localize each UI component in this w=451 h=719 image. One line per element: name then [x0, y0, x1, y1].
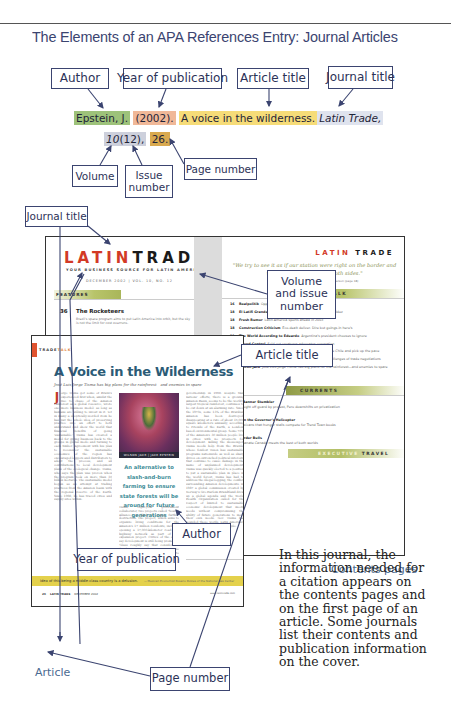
label-article-title-pages: Article title — [241, 344, 333, 367]
page-title: The Elements of an APA References Entry:… — [32, 28, 398, 46]
photo-figure — [141, 407, 157, 431]
label-journal-title-text: Journal title — [326, 71, 395, 85]
label-page-number: Page number — [184, 158, 257, 180]
article-headline: A Voice in the Wilderness — [54, 364, 233, 379]
label-year-pages: Year of publication — [77, 548, 176, 571]
citation-article-title: A voice in the wilderness. — [179, 111, 317, 125]
label-volume-text: Volume — [75, 170, 114, 182]
label-volume: Volume — [72, 165, 118, 187]
toc-item: 28A Banner StumblerCaught off guard by p… — [230, 400, 400, 409]
article-photo: WILSON JACK | JACK EPSTEIN — [119, 393, 179, 458]
toc-desc: Cipanate Canada meets the best of both w… — [239, 441, 318, 445]
drop-cap: J — [54, 392, 60, 402]
toc-title: Fresh Rumor — [239, 318, 263, 322]
label-issue-number: Issue number — [125, 165, 173, 198]
article-deck: José Luis Jorge Tisma has big plans for … — [54, 382, 202, 387]
toc-item: 19The World According to EduardoArgentin… — [230, 334, 400, 339]
section-label-trade: TRADE — [39, 348, 57, 352]
footer-page-number: 26 — [42, 592, 46, 596]
top-rule — [0, 23, 451, 24]
right-logo-trade: TRADE — [355, 249, 394, 257]
date-volume-line: DECEMBER 2002 | VOL. 10, NO. 12 — [86, 279, 173, 283]
column-1-text: orge Tisma got some of Brazil's experien… — [54, 392, 112, 501]
label-year-pages-text: Year of publication — [73, 553, 179, 566]
footer-journal: LATIN TRADE — [50, 592, 70, 596]
citation-volume: 10 — [106, 133, 119, 145]
quote-band: Idea of this being a middle-class countr… — [32, 576, 243, 586]
article-footer: 26LATIN TRADEDECEMBER 2002 — [42, 592, 98, 596]
footer-date: DECEMBER 2002 — [74, 592, 98, 596]
toc-title: A Banner Stumbler — [239, 400, 274, 404]
label-journal-title: Journal title — [328, 66, 393, 89]
toc-desc: Argentina's president chooses to ignore — [301, 334, 367, 338]
label-author-text: Author — [60, 72, 100, 86]
section-label: TRADETALK — [39, 348, 71, 352]
features-bar: FEATURES — [54, 290, 121, 299]
toc-num: 18 — [230, 310, 239, 315]
right-latin-trade-logo: LATIN TRADE — [315, 249, 394, 257]
executive-travel-bar: EXECUTIVE TRAVEL — [288, 449, 405, 458]
band-attribution: — Mexican Economist Rosario Robles of th… — [144, 579, 234, 583]
band-quote: Idea of this being a middle-class countr… — [40, 579, 138, 583]
label-year-text: Year of publication — [117, 72, 228, 86]
feature-page-number: 36 — [60, 308, 68, 314]
toc-desc: Eco-dealt deliver. Dire but goings-in he… — [282, 326, 352, 330]
currents-rule — [222, 395, 405, 396]
citation-line-1: Epstein, J. (2002). A voice in the wilde… — [74, 112, 383, 124]
citation-year: (2002). — [133, 111, 175, 125]
photo-caption: WILSON JACK | JACK EPSTEIN — [119, 452, 179, 458]
citation-issue: (12), — [119, 133, 144, 145]
caption-article: Article — [35, 666, 70, 679]
toc-desc: Mexicans that hunger stalls compete for … — [239, 423, 336, 427]
label-journal-title-pages: Journal title — [25, 206, 88, 227]
travel-label: TRAVEL — [362, 451, 390, 456]
right-logo-latin: LATIN — [315, 249, 350, 257]
citation-journal-title: Latin Trade, — [317, 111, 383, 125]
section-red-tab — [32, 343, 37, 357]
label-issue-text: Issue number — [129, 170, 170, 193]
currents-bar: CURRENTS — [286, 386, 405, 395]
column-end-rule — [186, 559, 244, 560]
label-volume-issue-text: Volume and issue number — [272, 276, 331, 312]
label-journal-title-pages-text: Journal title — [26, 210, 86, 222]
explanatory-note: In this journal, the information needed … — [279, 548, 429, 669]
toc-title: El Latifi Grande — [239, 310, 268, 314]
executive-label: EXECUTIVE — [318, 451, 359, 456]
toc-title: Can the Governor's Helicopter — [239, 418, 295, 422]
label-author-pages-text: Author — [182, 528, 221, 541]
citation-page: 26. — [150, 132, 171, 146]
toc-item: 30Can the Governor's HelicopterMexicans … — [230, 418, 400, 427]
label-article-title: Article title — [237, 68, 309, 89]
toc-title: Construction Criticism — [239, 326, 280, 330]
toc-num: 18 — [230, 318, 239, 323]
toc-title: The World According to Eduardo — [239, 334, 299, 338]
citation-line-2: 10(12), 26. — [104, 133, 170, 145]
features-rule — [54, 299, 194, 300]
toc-num: 18 — [230, 326, 239, 331]
toc-num: 16 — [230, 302, 239, 307]
label-year-of-publication: Year of publication — [123, 68, 222, 89]
logo-tagline: YOUR BUSINESS SOURCE FOR LATIN AMERICA — [66, 268, 204, 272]
article-column-1: Jorge Tisma got some of Brazil's experie… — [54, 392, 112, 557]
label-page-number-pages-text: Page number — [152, 672, 228, 685]
toc-desc: Caught off guard by protest, Peru downsh… — [239, 405, 340, 409]
label-page-number-pages: Page number — [150, 667, 230, 691]
citation-volume-issue: 10(12), — [104, 132, 146, 146]
label-page-number-text: Page number — [186, 163, 256, 175]
label-volume-and-issue: Volume and issue number — [267, 270, 336, 319]
toc-item: 32Border BullsCipanate Canada meets the … — [230, 436, 400, 445]
citation-author: Epstein, J. — [74, 111, 130, 125]
toc-title: Realpolitik — [239, 302, 259, 306]
currents-list: 28A Banner StumblerCaught off guard by p… — [230, 400, 400, 455]
section-label-talk: TALK — [57, 348, 71, 352]
label-article-title-text: Article title — [240, 72, 306, 86]
toc-item: 18Construction CriticismEco-dealt delive… — [230, 326, 400, 331]
feature-title: The Rocketeers — [76, 308, 124, 314]
latin-trade-logo: LATINTRADE — [64, 249, 208, 267]
label-author: Author — [51, 68, 109, 89]
label-author-pages: Author — [172, 523, 231, 546]
footer-url: www.latintrade.com — [210, 592, 235, 595]
logo-latin: LATIN — [64, 249, 132, 267]
feature-description: Brazil's space program aims to put Latin… — [76, 317, 191, 326]
label-article-title-pages-text: Article title — [255, 349, 318, 362]
